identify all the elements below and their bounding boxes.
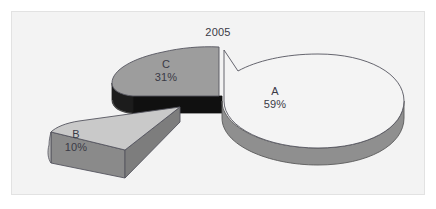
- pie-chart-figure: 2005 A 59% C 31% B 10%: [0, 0, 436, 209]
- slice-label-a: A 59%: [248, 85, 302, 111]
- slice-label-b-name: B: [50, 128, 102, 141]
- chart-title: 2005: [0, 26, 436, 39]
- slice-label-c-value: 31%: [139, 71, 193, 84]
- slice-label-a-value: 59%: [248, 98, 302, 111]
- slice-label-c-name: C: [139, 58, 193, 71]
- slice-label-a-name: A: [248, 85, 302, 98]
- slice-label-c: C 31%: [139, 58, 193, 84]
- slice-label-b: B 10%: [50, 128, 102, 154]
- slice-label-b-value: 10%: [50, 141, 102, 154]
